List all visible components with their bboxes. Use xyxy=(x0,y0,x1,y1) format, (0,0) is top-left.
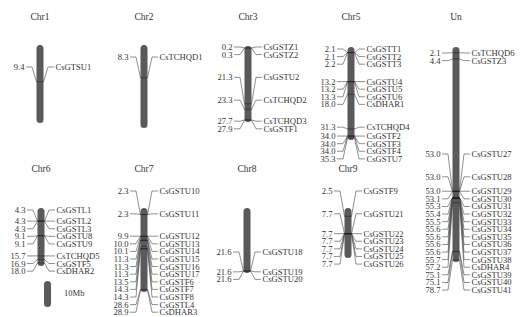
chromosome-chr1: Chr19.4CsGTSU1 xyxy=(14,12,92,123)
gene-name: CsGSTZ3 xyxy=(472,56,507,66)
chromosome-body xyxy=(453,47,460,262)
chromosome-title: Chr8 xyxy=(238,164,257,174)
gene-connector-left xyxy=(130,249,141,290)
gene-name: CsGSTU7 xyxy=(367,154,404,164)
gene-connector-right xyxy=(45,210,56,221)
gene-connector-right xyxy=(252,77,263,103)
gene-position: 2.5 xyxy=(322,186,333,196)
gene-connector-right xyxy=(355,94,366,104)
gene-connector-right xyxy=(45,263,56,271)
chromosome-chr2: Chr28.3CsTCHQD1 xyxy=(118,12,203,128)
gene-connector-left xyxy=(234,48,245,55)
gene-connector-left xyxy=(337,127,348,129)
gene-connector-right xyxy=(44,67,55,82)
chromosome-chr3: Chr30.2CsGSTZ10.3CsGSTZ221.3CsGSTU223.3C… xyxy=(217,12,306,134)
gene-connector-left xyxy=(130,290,141,312)
gene-connector-left xyxy=(130,249,141,297)
chromosome-title: Chr5 xyxy=(342,12,361,22)
gene-connector-right xyxy=(45,260,56,264)
gene-connector-left xyxy=(233,252,244,271)
chromosome-chr6: Chr64.3CsGSTL14.3CsGSTL24.3CsGSTL39.1CsG… xyxy=(10,164,99,276)
gene-position: 2.2 xyxy=(325,59,336,69)
gene-name: CsDHAR3 xyxy=(160,307,198,317)
gene-connector-left xyxy=(234,120,245,121)
gene-position: 18.0 xyxy=(320,99,335,109)
gene-connector-right xyxy=(355,53,366,64)
chromosome-body xyxy=(345,208,352,258)
chromosome-title: Chr2 xyxy=(135,12,154,22)
gene-connector-right xyxy=(251,271,262,279)
gene-position: 8.3 xyxy=(118,52,129,62)
gene-position: 21.6 xyxy=(216,274,232,284)
gene-connector-right xyxy=(355,136,366,144)
chromosome-body xyxy=(141,45,148,128)
chromosomes-layer: Chr19.4CsGTSU1Chr28.3CsTCHQD1Chr30.2CsGS… xyxy=(10,12,515,317)
gene-connector-right xyxy=(460,192,471,199)
gene-connector-right xyxy=(148,214,159,215)
gene-position: 4.3 xyxy=(15,205,26,215)
gene-name: CsGSTF1 xyxy=(264,124,298,134)
gene-name: CsGTSU1 xyxy=(56,62,92,72)
gene-connector-left xyxy=(130,57,141,78)
chromosome-title: Chr9 xyxy=(339,164,358,174)
gene-position: 23.3 xyxy=(217,95,232,105)
gene-connector-left xyxy=(337,53,348,64)
gene-connector-right xyxy=(148,249,159,297)
gene-connector-left xyxy=(442,192,453,199)
gene-position: 2.3 xyxy=(118,209,129,219)
gene-position: 9.4 xyxy=(14,62,25,72)
gene-name: CsDHAR1 xyxy=(367,99,405,109)
gene-connector-left xyxy=(337,49,348,53)
gene-connector-left xyxy=(27,260,38,264)
gene-position: 35.3 xyxy=(320,154,335,164)
chromosome-body xyxy=(245,46,252,122)
gene-name: CsGSTU20 xyxy=(263,274,303,284)
gene-name: CsGSTU41 xyxy=(472,285,512,295)
chromosome-map: Chr19.4CsGTSU1Chr28.3CsTCHQD1Chr30.2CsGS… xyxy=(0,0,528,317)
gene-connector-right xyxy=(251,271,262,272)
gene-position: 53.0 xyxy=(425,172,440,182)
gene-connector-left xyxy=(234,77,245,103)
chromosome-chr7: Chr72.3CsGSTU102.3CsGSTU119.9CsGSTU1210.… xyxy=(113,164,200,317)
gene-connector-left xyxy=(234,100,245,109)
gene-connector-right xyxy=(355,127,366,129)
chromosome-chr9: Chr92.5CsGSTF97.7CsGSTU217.7CsGSTU227.7C… xyxy=(322,164,405,269)
chromosome-chr5: Chr52.1CsGSTT12.1CsGSTT22.2CsGSTT313.2Cs… xyxy=(320,12,410,164)
gene-connector-left xyxy=(27,263,38,271)
chromosome-title: Chr3 xyxy=(239,12,258,22)
chromosome-body xyxy=(38,208,45,266)
gene-connector-left xyxy=(27,221,38,229)
gene-connector-right xyxy=(45,236,56,244)
scale-bar-body xyxy=(44,281,51,307)
gene-position: 0.3 xyxy=(222,50,233,60)
gene-connector-left xyxy=(27,236,38,244)
gene-connector-left xyxy=(233,271,244,272)
gene-connector-right xyxy=(148,249,159,290)
chromosome-title: Chr1 xyxy=(31,12,50,22)
chromosome-body xyxy=(37,45,44,123)
gene-name: CsGSTU18 xyxy=(263,247,303,257)
gene-name: CsGSTF9 xyxy=(364,186,398,196)
gene-position: 27.9 xyxy=(217,124,232,134)
gene-position: 7.7 xyxy=(322,259,333,269)
gene-connector-left xyxy=(234,47,245,48)
gene-connector-right xyxy=(352,191,363,216)
gene-connector-left xyxy=(442,59,453,61)
gene-connector-right xyxy=(252,100,263,109)
scale-bar: 10Mb xyxy=(44,281,85,307)
gene-connector-left xyxy=(233,271,244,279)
gene-connector-right xyxy=(148,191,159,215)
gene-connector-left xyxy=(130,214,141,215)
gene-connector-right xyxy=(45,221,56,229)
gene-name: CsGSTU11 xyxy=(160,209,200,219)
chromosome-title: Chr7 xyxy=(135,164,154,174)
gene-position: 53.0 xyxy=(425,149,440,159)
chromosome-un: Un2.1CsTCHQD64.4CsGSTZ353.0CsGSTU2753.0C… xyxy=(425,12,515,295)
chromosome-title: Un xyxy=(450,12,462,22)
gene-name: CsDHAR2 xyxy=(57,266,95,276)
gene-connector-left xyxy=(27,236,38,237)
gene-connector-right xyxy=(355,49,366,53)
gene-name: CsGSTL1 xyxy=(57,205,92,215)
gene-position: 21.6 xyxy=(216,247,232,257)
gene-connector-right xyxy=(148,57,159,78)
